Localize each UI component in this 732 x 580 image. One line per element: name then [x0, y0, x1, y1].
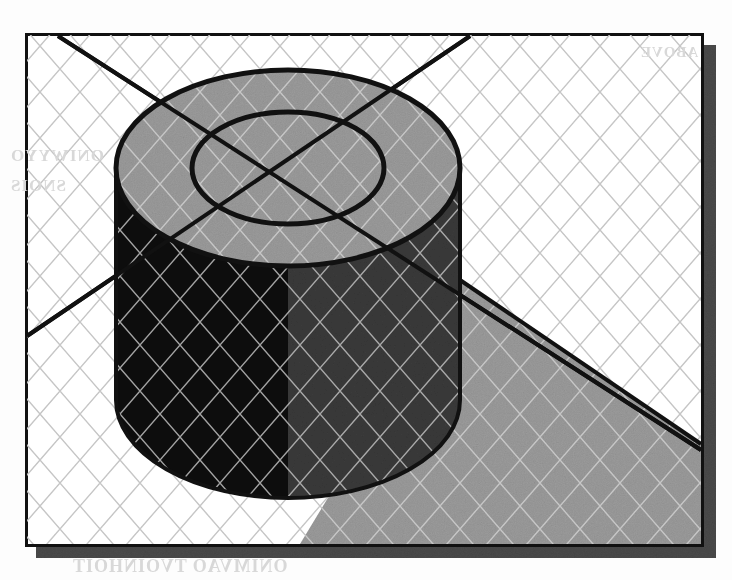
- illustration-stage: ONIWYYO SNOIS ONIMVAO TVOINHOIT ABOVE: [0, 0, 732, 580]
- technical-illustration-figure: [0, 0, 732, 580]
